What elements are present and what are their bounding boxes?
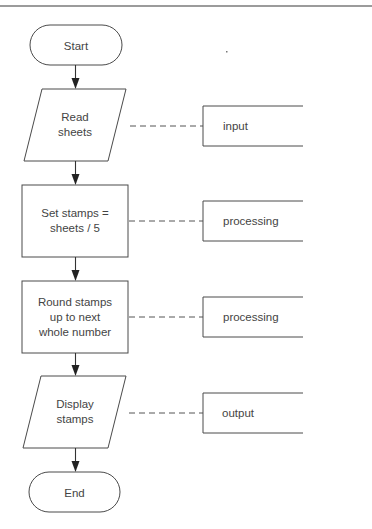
stray-mark: [226, 51, 228, 53]
arrowhead-icon: [72, 78, 80, 89]
node-set-stamps-process: Set stamps = sheets / 5: [22, 185, 128, 257]
node-round-label-line3: whole number: [38, 326, 111, 338]
annotation-bracket-shape: [203, 106, 303, 146]
annotation-output-label: output: [222, 407, 255, 419]
annotation-processing-1: processing: [203, 201, 303, 241]
parallelogram-shape: [24, 89, 126, 161]
node-read-label-line2: sheets: [58, 126, 92, 138]
node-end-label: End: [64, 487, 84, 499]
arrowhead-icon: [72, 174, 80, 185]
annotation-processing-1-label: processing: [223, 215, 279, 227]
node-start-label: Start: [64, 40, 89, 52]
arrowhead-icon: [72, 270, 80, 281]
process-shape: [22, 185, 128, 257]
node-set-label-line1: Set stamps =: [41, 207, 109, 219]
node-display-label-line2: stamps: [56, 413, 93, 425]
annotation-output: output: [203, 393, 303, 433]
node-round-label-line1: Round stamps: [38, 296, 112, 308]
node-read-sheets-io: Read sheets: [24, 89, 126, 161]
arrowhead-icon: [72, 365, 80, 376]
node-start-terminal: Start: [30, 25, 122, 65]
node-round-label-line2: up to next: [50, 311, 101, 323]
annotation-processing-2: processing: [203, 297, 303, 337]
node-round-stamps-process: Round stamps up to next whole number: [22, 281, 128, 353]
annotation-processing-2-label: processing: [223, 311, 279, 323]
parallelogram-shape: [23, 376, 126, 448]
annotation-input-label: input: [223, 120, 249, 132]
node-display-stamps-io: Display stamps: [23, 376, 126, 448]
node-set-label-line2: sheets / 5: [50, 222, 100, 234]
node-display-label-line1: Display: [56, 398, 94, 410]
flowchart-diagram: Start Read sheets input Set stamps = she…: [0, 0, 372, 529]
annotation-input: input: [203, 106, 303, 146]
arrowhead-icon: [72, 461, 80, 472]
node-read-label-line1: Read: [61, 111, 89, 123]
node-end-terminal: End: [29, 472, 120, 512]
